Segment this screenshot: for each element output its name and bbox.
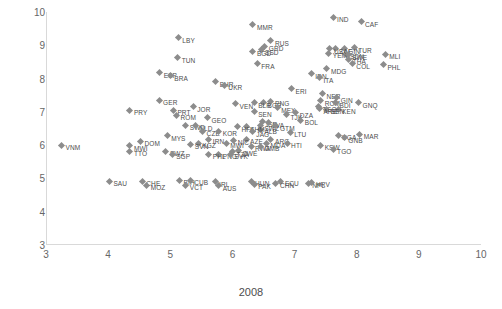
y-tick-label: 4 [15,206,45,217]
data-point-label: ITA [323,77,333,84]
data-point-label: SVK [235,153,248,160]
data-point-label: GER [163,99,177,106]
data-point-label: TTO [134,150,147,157]
data-point-label: TGO [337,148,351,155]
data-point-label: VNM [66,144,81,151]
data-point-label: LTU [294,131,306,138]
data-point-label: MLI [389,53,400,60]
data-point-label: VCT [190,184,203,191]
data-point-label: ERI [295,88,306,95]
y-tick-label: 7 [15,106,45,117]
data-point-label: BGD [257,50,271,57]
x-tick-label: 10 [466,249,496,260]
data-point-label: MAR [364,133,379,140]
x-tick-label: 6 [217,249,247,260]
data-point-label: JAG [256,131,269,138]
y-tick-label: 8 [15,73,45,84]
data-point-label: PHL [387,64,400,71]
y-tick-label: 9 [15,40,45,51]
data-point-label: ARE [323,108,337,115]
data-point-label: IND [337,16,349,23]
data-point-label: SGP [176,153,190,160]
data-point-label: JOR [197,106,210,113]
data-point-label: SEN [258,111,272,118]
data-point-label: GMB [264,145,279,152]
data-point-label: MMR [257,24,273,31]
data-point-label: ROM [181,114,196,121]
x-tick-label: 3 [31,249,61,260]
data-point-label: MOZ [151,184,166,191]
x-tick-label: 8 [342,249,372,260]
x-tick-label: 9 [404,249,434,260]
data-point-label: CAF [365,21,378,28]
data-point-label: HRV [316,181,330,188]
data-point-label: CHN [280,182,294,189]
data-point-label: HTI [291,142,302,149]
data-point-label: PAK [258,183,271,190]
y-tick-label: 6 [15,140,45,151]
data-point-label: UKR [228,84,242,91]
x-tick-label: 4 [93,249,123,260]
data-point-label: TUN [182,57,196,64]
data-point-label: COL [356,63,370,70]
data-point-label: BRA [174,75,188,82]
data-point-label: MDG [331,68,346,75]
data-point-label: KOR [223,130,237,137]
data-point-label: LBY [182,37,195,44]
data-point-label: SVN [195,143,209,150]
data-point-label: SAU [113,180,127,187]
data-point-label: AUS [223,185,237,192]
data-point-label: BLR [258,102,271,109]
data-point-label: FRA [261,63,274,70]
y-tick-label: 10 [15,7,45,18]
x-axis-label: 2008 [0,286,502,298]
data-point-label: PRY [134,109,148,116]
data-point-label: GEO [212,117,227,124]
x-tick-label: 5 [155,249,185,260]
x-tick-label: 7 [280,249,310,260]
y-tick-label: 5 [15,173,45,184]
data-point-label: BOL [305,119,318,126]
data-point-label: MYS [171,135,185,142]
data-point-label: GNQ [363,102,378,109]
scatter-chart: 2013 2008 345678910345678910 MMRINDCAFLB… [0,0,502,309]
data-point-label: PHL [213,153,226,160]
data-point-label: GNB [348,137,362,144]
